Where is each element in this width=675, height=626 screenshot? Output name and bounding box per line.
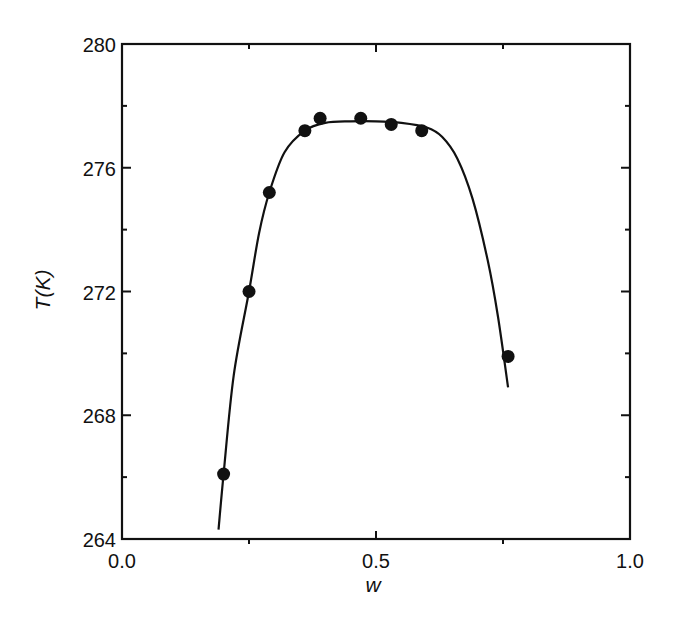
data-point [314,112,327,125]
data-point [243,285,256,298]
y-tick-label: 268 [83,405,116,427]
x-tick-label: 0.0 [108,550,136,572]
chart: 0.00.51.0264268272276280 w T(K) [0,0,675,626]
y-tick-label: 276 [83,158,116,180]
plot-frame [122,44,630,539]
y-tick-label: 264 [83,529,116,551]
data-point [298,124,311,137]
data-points [217,112,514,481]
y-axis-title: T(K) [31,270,54,311]
chart-svg: 0.00.51.0264268272276280 w T(K) [0,0,675,626]
y-tick-label: 280 [83,34,116,56]
data-point [263,186,276,199]
plot-border [122,44,630,539]
data-point [415,124,428,137]
data-point [502,350,515,363]
axis-ticks [122,44,630,544]
data-point [217,468,230,481]
fit-curve [219,121,509,530]
x-axis-title: w [365,573,382,596]
x-tick-label: 0.5 [362,550,390,572]
data-point [354,112,367,125]
x-tick-label: 1.0 [616,550,644,572]
data-point [385,118,398,131]
y-tick-label: 272 [83,282,116,304]
